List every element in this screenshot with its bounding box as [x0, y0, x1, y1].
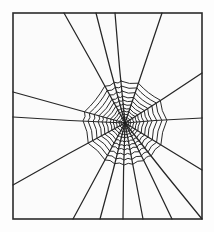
figure-root [0, 0, 214, 232]
web-hub [123, 121, 126, 124]
spider-web-drawing [0, 0, 214, 232]
border-frame [13, 13, 202, 219]
